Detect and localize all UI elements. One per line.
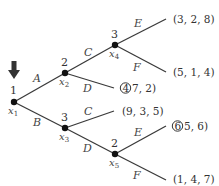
- player-label-x4: 3: [111, 28, 118, 41]
- action-label-x2-D: D: [82, 82, 92, 95]
- payoff-x4-F: (5, 1, 4): [173, 66, 215, 78]
- action-label-x5-F: F: [132, 169, 141, 182]
- action-label-A: A: [32, 72, 41, 85]
- player-label-x5: 2: [111, 137, 118, 150]
- payoff-x5-E: 6 5, 6): [172, 120, 208, 132]
- node-name-x1: x1: [8, 105, 18, 118]
- payoff-rest: 5, 6): [184, 120, 208, 132]
- payoff-rest: 7, 2): [132, 82, 156, 94]
- payoff-circled-value: 4: [123, 82, 130, 94]
- payoff-x3-C: (9, 3, 5): [122, 105, 164, 117]
- game-tree: 1 2 3 3 2 x1 x2 x3 x4 x5 A B C D C D E F…: [0, 0, 219, 186]
- node-name-x4: x4: [109, 48, 120, 61]
- player-label-x3: 3: [61, 111, 68, 124]
- player-label-x1: 1: [10, 84, 17, 97]
- action-label-B: B: [32, 116, 41, 129]
- action-label-x4-E: E: [133, 17, 142, 30]
- down-arrow-icon: [8, 61, 20, 79]
- node-name-x3: x3: [59, 131, 69, 144]
- payoff-x5-F: (1, 4, 7): [173, 173, 215, 185]
- payoff-x4-E: (3, 2, 8): [173, 13, 215, 25]
- payoff-x2-D: 4 7, 2): [120, 82, 156, 94]
- action-label-x3-C: C: [84, 105, 93, 118]
- action-label-x2-C: C: [84, 46, 93, 59]
- node-name-x2: x2: [59, 76, 69, 89]
- player-label-x2: 2: [61, 56, 68, 69]
- node-name-x5: x5: [109, 157, 119, 170]
- payoff-circled-value: 6: [175, 120, 182, 132]
- action-label-x5-E: E: [133, 126, 142, 139]
- action-label-x3-D: D: [82, 142, 92, 155]
- action-label-x4-F: F: [132, 61, 141, 74]
